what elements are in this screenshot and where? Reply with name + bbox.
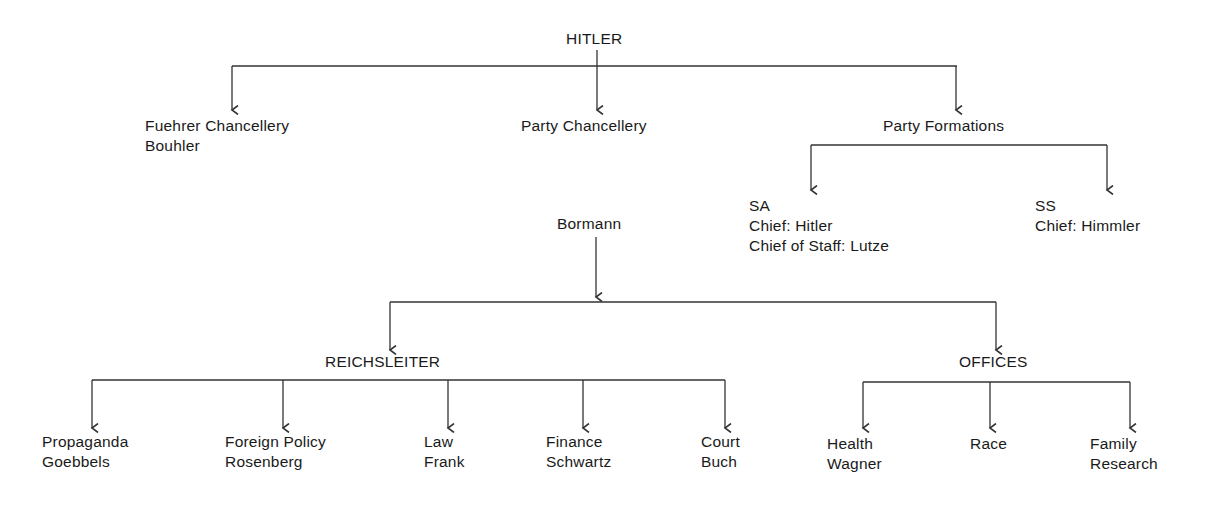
node-head: Frank	[424, 452, 465, 472]
node-sa: SA Chief: Hitler Chief of Staff: Lutze	[749, 196, 889, 256]
node-finance: Finance Schwartz	[546, 432, 611, 472]
node-title: SA	[749, 196, 889, 216]
node-title: SS	[1035, 196, 1140, 216]
node-head: Rosenberg	[225, 452, 326, 472]
node-chief: Chief: Hitler	[749, 216, 889, 236]
node-health: Health Wagner	[827, 434, 882, 474]
node-title: Law	[424, 432, 465, 452]
connector-lines	[0, 0, 1209, 505]
node-title: Propaganda	[42, 432, 128, 452]
node-offices: OFFICES	[959, 352, 1028, 372]
node-head: Goebbels	[42, 452, 128, 472]
node-race: Race	[970, 434, 1007, 454]
node-head: Bouhler	[145, 136, 289, 156]
node-title: Family	[1090, 434, 1158, 454]
node-title: Health	[827, 434, 882, 454]
node-subtitle: Research	[1090, 454, 1158, 474]
node-head: Wagner	[827, 454, 882, 474]
node-title: Party Formations	[883, 116, 1004, 136]
node-label: HITLER	[566, 29, 622, 49]
node-hitler: HITLER	[566, 29, 622, 49]
node-chief: Chief: Himmler	[1035, 216, 1140, 236]
node-label: Bormann	[557, 214, 621, 234]
node-family-research: Family Research	[1090, 434, 1158, 474]
node-label: REICHSLEITER	[325, 352, 440, 372]
node-title: Finance	[546, 432, 611, 452]
node-party-formations: Party Formations	[883, 116, 1004, 136]
node-reichsleiter: REICHSLEITER	[325, 352, 440, 372]
node-head: Schwartz	[546, 452, 611, 472]
node-label: OFFICES	[959, 352, 1028, 372]
node-foreign-policy: Foreign Policy Rosenberg	[225, 432, 326, 472]
node-bormann: Bormann	[557, 214, 621, 234]
node-title: Fuehrer Chancellery	[145, 116, 289, 136]
node-court: Court Buch	[701, 432, 740, 472]
node-law: Law Frank	[424, 432, 465, 472]
node-title: Party Chancellery	[521, 116, 647, 136]
node-propaganda: Propaganda Goebbels	[42, 432, 128, 472]
node-title: Foreign Policy	[225, 432, 326, 452]
node-ss: SS Chief: Himmler	[1035, 196, 1140, 236]
node-title: Court	[701, 432, 740, 452]
node-chief-of-staff: Chief of Staff: Lutze	[749, 236, 889, 256]
node-party-chancellery: Party Chancellery	[521, 116, 647, 136]
node-fuehrer-chancellery: Fuehrer Chancellery Bouhler	[145, 116, 289, 156]
node-title: Race	[970, 434, 1007, 454]
node-head: Buch	[701, 452, 740, 472]
